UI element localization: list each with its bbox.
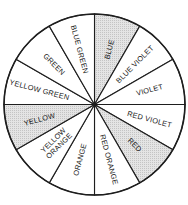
color-wheel: BLUEBLUE VIOLETVIOLETRED VIOLETREDRED OR… <box>0 0 188 205</box>
wheel-segments <box>4 14 185 195</box>
